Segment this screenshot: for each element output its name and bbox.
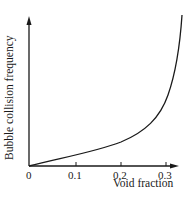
y-axis-arrow-icon — [27, 16, 32, 25]
y-axis-label: Bubble collision frequency — [3, 35, 15, 160]
x-axis-label: Void fraction — [113, 177, 173, 189]
x-tick-label-0.1: 0.1 — [68, 170, 82, 181]
collision-frequency-curve — [29, 15, 182, 166]
x-axis-arrow-icon — [170, 164, 179, 169]
x-tick-label-0: 0 — [26, 170, 32, 181]
